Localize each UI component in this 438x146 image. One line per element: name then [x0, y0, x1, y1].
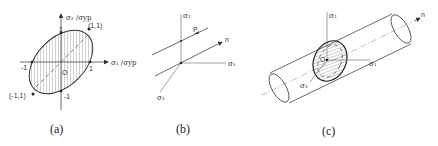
tick-label-y-pos: 1 [59, 26, 63, 33]
sigma1-label: σ₁ [228, 60, 236, 68]
cylinder-left-end [265, 71, 293, 106]
sigma3-label-c: σ₃ [300, 82, 308, 90]
origin-label-c: O [320, 56, 326, 63]
caption-a: (a) [50, 122, 63, 136]
n-label: n [225, 36, 229, 43]
tick-x-neg [31, 61, 34, 64]
sigma3-axis [160, 63, 181, 92]
panel-b: σ₂ σ₁ σ₃ P n (b) [152, 12, 236, 136]
n-label-c: n [421, 11, 425, 18]
hatched-cross-section [307, 35, 354, 87]
origin-label: O [62, 69, 68, 76]
tick-x-pos [89, 61, 92, 64]
sigma2-label-c: σ₂ [329, 12, 337, 20]
point-neg1-1 [32, 93, 35, 96]
tick-label-y-neg: -1 [64, 93, 70, 100]
x-axis-label: σ₁ /σyp [111, 59, 137, 67]
n-vector [155, 42, 222, 76]
point-label-neg1-1: (-1,1) [9, 92, 26, 100]
y-axis-label: σ₂ /σyp [66, 14, 92, 22]
caption-c: (c) [322, 124, 335, 138]
panel-c: σ₂ σ₁ σ₃ O n (c) [262, 11, 425, 138]
sigma1-label-c: σ₁ [369, 60, 377, 68]
caption-b: (b) [176, 122, 190, 136]
cylinder-right-end [387, 12, 415, 47]
sigma2-label: σ₂ [183, 12, 191, 20]
n-arrow [414, 18, 420, 21]
figure-canvas: σ₂ /σyp σ₁ /σyp 1 -1 1 -1 (1,1) (-1,1) O… [0, 0, 438, 146]
p-axis-intersection [180, 40, 182, 42]
sigma3-label: σ₃ [157, 94, 165, 102]
origin-point-c [326, 59, 329, 62]
tick-y-neg [60, 90, 63, 93]
tick-label-x-pos: 1 [89, 65, 93, 72]
p-label: P [193, 26, 198, 33]
origin-point [180, 62, 182, 64]
point-label-1-1: (1,1) [88, 22, 102, 30]
cylinder-bottom-edge [289, 44, 411, 103]
panel-a: σ₂ /σyp σ₁ /σyp 1 -1 1 -1 (1,1) (-1,1) O… [9, 14, 137, 136]
p-line [152, 28, 208, 55]
tick-label-x-neg: -1 [21, 64, 27, 71]
